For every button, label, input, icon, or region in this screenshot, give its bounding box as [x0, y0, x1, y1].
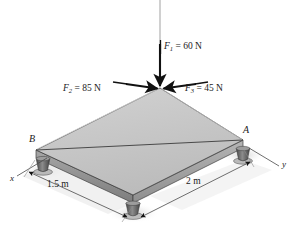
force-label-F3: F3 = 45 N [185, 84, 223, 94]
point-label-B: B [29, 134, 35, 144]
force-label-F1: F1 = 60 N [164, 42, 202, 52]
point-label-A: A [243, 125, 249, 135]
figure-canvas: F1 = 60 N F2 = 85 N F3 = 45 N B A x y 1.… [0, 0, 297, 252]
force-label-F2: F2 = 85 N [63, 84, 101, 94]
axis-label-y: y [282, 160, 286, 169]
dimension-label-left: 1.5 m [47, 180, 69, 190]
statics-diagram [0, 0, 297, 252]
F2-arrow [126, 84, 158, 89]
axis-label-x: x [10, 174, 14, 183]
dimension-label-right: 2 m [186, 177, 201, 187]
F2-tail [113, 82, 127, 84]
